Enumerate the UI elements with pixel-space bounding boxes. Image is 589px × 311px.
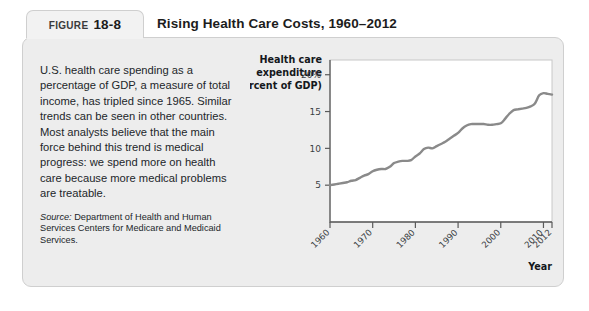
y-tick-label: 5 (315, 180, 321, 190)
x-tick-label: 2000 (480, 227, 503, 250)
figure-caption: U.S. health care spending as a percentag… (40, 63, 238, 202)
x-tick-label: 1980 (394, 227, 417, 250)
figure-container: FIGURE 18-8 Rising Health Care Costs, 19… (0, 0, 589, 311)
source-note: Source: Department of Health and Human S… (40, 212, 238, 247)
x-tick-label: 1960 (309, 227, 332, 250)
plot-background (330, 60, 552, 222)
figure-number: 18-8 (93, 17, 121, 32)
chart-area: Health care expenditure (percent of GDP)… (250, 52, 565, 282)
source-label: Source: (40, 212, 72, 222)
y-tick-label: 15 (310, 107, 321, 117)
x-tick-label: 1970 (352, 227, 375, 250)
tab-merge-strip (27, 36, 143, 39)
y-tick-label: 10 (310, 144, 322, 154)
figure-label-tab: FIGURE 18-8 (26, 10, 144, 38)
y-axis-title-line-1: Health care (260, 54, 323, 65)
line-chart: Health care expenditure (percent of GDP)… (250, 52, 565, 282)
caption-column: U.S. health care spending as a percentag… (40, 63, 238, 247)
x-axis-title: Year (527, 261, 552, 272)
figure-title: Rising Health Care Costs, 1960–2012 (157, 16, 397, 31)
y-axis-title-line-3: (percent of GDP) (250, 80, 322, 91)
y-tick-label: 20% (301, 70, 321, 80)
figure-label-word: FIGURE (49, 20, 89, 31)
x-tick-label: 1990 (437, 227, 460, 250)
x-axis-ticks: 1960197019801990200020102012 (309, 222, 554, 250)
